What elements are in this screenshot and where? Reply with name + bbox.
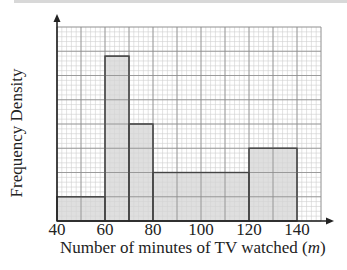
x-tick-140: 140 — [284, 220, 310, 240]
y-axis-label: Frequency Density — [7, 69, 27, 198]
x-axis-label: Number of minutes of TV watched (m) — [60, 238, 322, 258]
x-tick-100: 100 — [188, 220, 214, 240]
x-axis-variable: m — [308, 238, 320, 257]
x-axis-label-close: ) — [320, 238, 326, 257]
x-tick-80: 80 — [145, 220, 162, 240]
x-tick-120: 120 — [236, 220, 262, 240]
x-tick-60: 60 — [97, 220, 114, 240]
x-tick-40: 40 — [49, 220, 66, 240]
histogram-bar-60-70 — [105, 56, 129, 221]
x-axis-label-text: Number of minutes of TV watched ( — [60, 238, 308, 257]
